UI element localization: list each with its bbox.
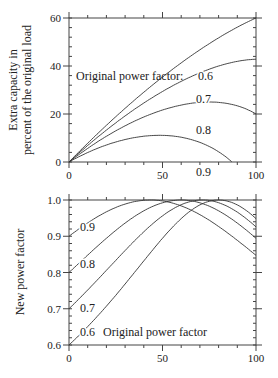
top-x-tick-label: 0 [66,169,72,181]
bottom-x-tick-label: 50 [157,352,169,364]
bottom-y-tick-label: 0.6 [47,339,61,351]
bottom-x-tick-label: 100 [248,352,265,364]
top-series-pf-0.8 [69,102,256,162]
bottom-series-label-0.8: 0.8 [80,257,95,271]
top-y-axis-label-line2: percent of the original load [20,25,34,155]
bottom-series-pf-0.8 [69,200,256,273]
bottom-series-pf-0.6 [69,200,256,345]
top-legend-title: Original power factor: [76,69,183,83]
bottom-y-tick-label: 0.9 [47,230,61,242]
top-y-tick-label: 20 [50,108,62,120]
top-x-tick-label: 100 [248,169,265,181]
bottom-y-axis-label: New power factor [13,229,27,316]
top-plot-frame [69,18,256,162]
top-x-tick-label: 50 [157,169,169,181]
top-series-label-0.8: 0.8 [196,123,211,137]
bottom-x-tick-label: 0 [66,352,72,364]
bottom-plot-frame [69,200,256,345]
bottom-y-tick-label: 1.0 [47,194,61,206]
top-y-tick-label: 40 [50,60,62,72]
chart-svg: 05010002040600501000.60.70.80.91.0Origin… [0,0,278,378]
bottom-y-tick-label: 0.8 [47,267,61,279]
top-series-label-0.6: 0.6 [198,69,213,83]
top-y-tick-label: 60 [50,12,62,24]
bottom-legend-title: Original power factor [103,325,207,339]
top-series-label-0.9: 0.9 [196,165,211,179]
top-y-axis-label-line1: Extra capacity in [6,49,20,130]
chart-figure: 05010002040600501000.60.70.80.91.0Origin… [0,0,278,378]
top-y-tick-label: 0 [56,156,62,168]
bottom-series-label-0.6: 0.6 [80,325,95,339]
bottom-series-label-0.7: 0.7 [80,301,95,315]
bottom-series-label-0.9: 0.9 [80,220,95,234]
top-series-pf-0.6 [69,18,256,162]
bottom-y-tick-label: 0.7 [47,303,61,315]
top-series-pf-0.9 [69,135,232,162]
top-series-label-0.7: 0.7 [196,92,211,106]
